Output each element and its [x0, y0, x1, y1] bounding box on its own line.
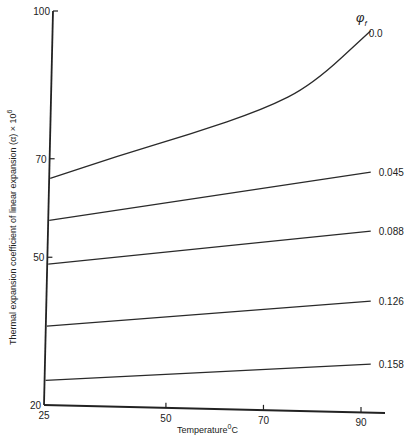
- series-labels: 0.00.0450.0880.1260.158: [369, 28, 404, 370]
- legend-title: φf: [356, 10, 367, 28]
- series-line-0.0: [50, 31, 371, 179]
- x-tick-label: 50: [160, 413, 172, 424]
- series-line-0.126: [47, 301, 371, 326]
- series-label: 0.126: [379, 296, 404, 307]
- chart-canvas: 205070100 25507090 0.00.0450.0880.1260.1…: [0, 0, 405, 446]
- series-label: 0.045: [379, 167, 404, 178]
- series-label: 0.0: [369, 28, 383, 39]
- x-axis-line: [44, 405, 385, 413]
- axes: [44, 11, 385, 413]
- series-label: 0.158: [379, 359, 404, 370]
- x-tick-label: 25: [38, 410, 50, 421]
- y-axis-title: Thermal expansion coefficient of linear …: [6, 110, 18, 345]
- y-tick-label: 100: [33, 6, 50, 17]
- x-tick-label: 70: [258, 415, 270, 426]
- y-ticks: 205070100: [30, 6, 58, 411]
- series-line-0.158: [46, 364, 371, 380]
- series-line-0.088: [48, 231, 371, 264]
- series-lines: [46, 31, 371, 381]
- y-tick-label: 50: [33, 252, 45, 263]
- series-label: 0.088: [379, 226, 404, 237]
- series-line-0.045: [49, 172, 371, 220]
- x-tick-label: 90: [355, 417, 367, 428]
- y-tick-label: 70: [36, 154, 48, 165]
- y-axis-line: [44, 11, 53, 405]
- x-axis-title: Temperature0C: [177, 423, 238, 435]
